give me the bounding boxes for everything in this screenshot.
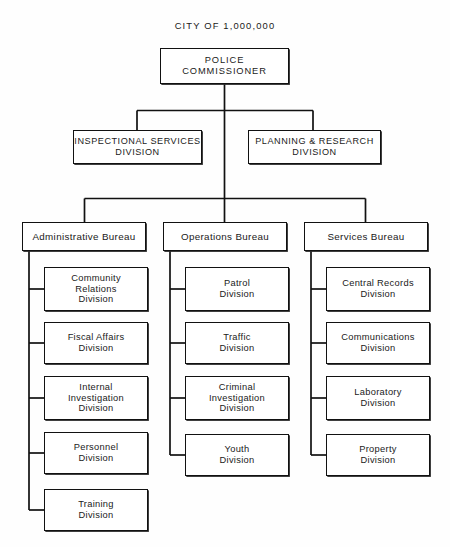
node-label: Property Division [327, 444, 429, 466]
node-label: Communications Division [327, 332, 429, 354]
node-label: POLICE COMMISSIONER [161, 55, 288, 77]
node-administrative-bureau[interactable]: Administrative Bureau [22, 222, 146, 251]
org-chart: CITY OF 1,000,000 POLICE COMMISSIONER IN… [0, 0, 450, 547]
node-fiscal-affairs-division[interactable]: Fiscal Affairs Division [44, 322, 148, 364]
node-label: Traffic Division [186, 332, 288, 354]
node-services-bureau[interactable]: Services Bureau [304, 222, 428, 251]
node-patrol-division[interactable]: Patrol Division [185, 267, 289, 311]
node-label: Operations Bureau [164, 231, 286, 243]
node-criminal-investigation-division[interactable]: Criminal Investigation Division [185, 376, 289, 420]
node-label: Laboratory Division [327, 387, 429, 409]
node-laboratory-division[interactable]: Laboratory Division [326, 376, 430, 420]
chart-title: CITY OF 1,000,000 [0, 20, 450, 31]
node-label: Internal Investigation Division [45, 382, 147, 415]
node-inspectional-services-division[interactable]: INSPECTIONAL SERVICES DIVISION [73, 130, 202, 164]
node-label: Services Bureau [305, 231, 427, 243]
node-planning-research-division[interactable]: PLANNING & RESEARCH DIVISION [248, 130, 381, 164]
node-training-division[interactable]: Training Division [44, 489, 148, 531]
node-internal-investigation-division[interactable]: Internal Investigation Division [44, 376, 148, 420]
node-label: Fiscal Affairs Division [45, 332, 147, 354]
node-label: Training Division [45, 499, 147, 521]
node-label: Youth Division [186, 444, 288, 466]
node-youth-division[interactable]: Youth Division [185, 434, 289, 476]
node-label: PLANNING & RESEARCH DIVISION [249, 136, 380, 157]
node-label: Community Relations Division [45, 273, 147, 306]
node-label: INSPECTIONAL SERVICES DIVISION [74, 136, 201, 157]
node-police-commissioner[interactable]: POLICE COMMISSIONER [160, 48, 289, 84]
node-personnel-division[interactable]: Personnel Division [44, 432, 148, 474]
node-property-division[interactable]: Property Division [326, 434, 430, 476]
node-label: Personnel Division [45, 442, 147, 464]
node-traffic-division[interactable]: Traffic Division [185, 322, 289, 364]
node-central-records-division[interactable]: Central Records Division [326, 267, 430, 311]
node-operations-bureau[interactable]: Operations Bureau [163, 222, 287, 251]
node-label: Administrative Bureau [23, 231, 145, 243]
node-label: Criminal Investigation Division [186, 382, 288, 415]
node-community-relations-division[interactable]: Community Relations Division [44, 267, 148, 311]
node-label: Patrol Division [186, 278, 288, 300]
node-communications-division[interactable]: Communications Division [326, 322, 430, 364]
node-label: Central Records Division [327, 278, 429, 300]
